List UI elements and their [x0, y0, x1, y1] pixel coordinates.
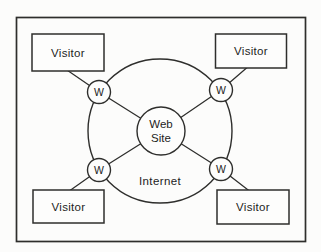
- network-diagram: Visitor Visitor Visitor Visitor W W W W …: [0, 0, 321, 252]
- visitor-label-top-left: Visitor: [51, 47, 85, 59]
- visitor-label-bottom-left: Visitor: [52, 201, 86, 213]
- w-node-label-bottom-right: W: [216, 163, 226, 175]
- w-node-label-top-right: W: [216, 84, 226, 96]
- visitor-label-bottom-right: Visitor: [236, 201, 270, 213]
- diagram-root: Visitor Visitor Visitor Visitor W W W W …: [17, 18, 306, 242]
- w-node-label-bottom-left: W: [94, 164, 104, 176]
- web-site-label-line2: Site: [151, 132, 171, 144]
- visitor-label-top-right: Visitor: [234, 45, 268, 57]
- internet-label: Internet: [139, 175, 182, 187]
- w-node-label-top-left: W: [94, 86, 104, 98]
- web-site-label-line1: Web: [149, 118, 172, 130]
